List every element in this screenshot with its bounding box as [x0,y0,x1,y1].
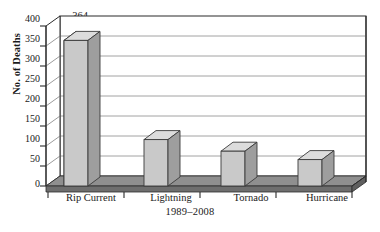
x-axis-ticks [48,192,352,198]
y-axis [40,26,46,186]
bar-rip-current[interactable] [64,31,100,186]
bar-right-face [168,131,180,186]
bar-hurricane[interactable] [298,151,334,186]
plot-area [0,0,380,232]
bar-front-face [64,40,88,186]
bar-front-face [221,151,245,186]
bar-lightning[interactable] [144,131,180,186]
bar-tornado[interactable] [221,142,257,186]
bar-front-face [298,160,322,186]
left-depth-wall [46,16,60,186]
bar-chart-figure: No. of Deaths 1989–2008 400 350 300 250 … [0,0,380,232]
bar-front-face [144,140,168,186]
bar-right-face [88,31,100,186]
